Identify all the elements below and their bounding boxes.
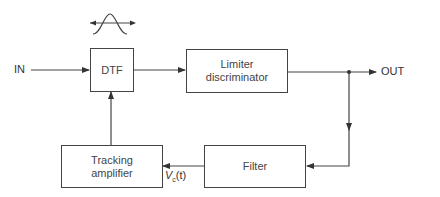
output-label: OUT xyxy=(381,65,404,77)
dtf-block: DTF xyxy=(90,48,134,92)
junction-dot xyxy=(347,70,351,74)
control-voltage-arg: (t) xyxy=(176,169,186,181)
tracking-label-line2: amplifier xyxy=(91,167,133,180)
dtf-label: DTF xyxy=(101,64,122,77)
control-voltage-label: Vc(t) xyxy=(165,169,186,183)
limiter-label-line1: Limiter xyxy=(220,58,253,71)
limiter-discriminator-block: Limiter discriminator xyxy=(186,49,288,93)
wire-to-filter xyxy=(307,128,349,166)
limiter-label-line2: discriminator xyxy=(206,71,268,84)
bandpass-response-icon xyxy=(90,14,136,34)
filter-block: Filter xyxy=(204,145,306,188)
tracking-amplifier-block: Tracking amplifier xyxy=(61,145,163,188)
input-label: IN xyxy=(14,63,25,75)
filter-label: Filter xyxy=(243,160,267,173)
tracking-label-line1: Tracking xyxy=(91,154,133,167)
